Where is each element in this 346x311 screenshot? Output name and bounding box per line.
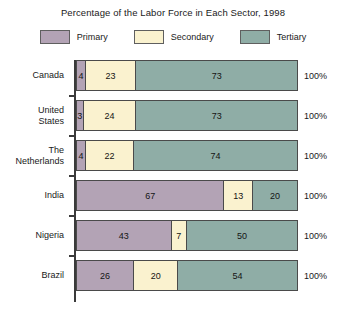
chart-legend: PrimarySecondaryTertiary — [0, 28, 346, 46]
bar-segment-primary[interactable]: 67 — [77, 181, 224, 210]
axis-tick — [69, 215, 76, 217]
row-label-india: India — [0, 180, 68, 211]
segment-value: 50 — [237, 231, 247, 241]
bar-segment-primary[interactable]: 43 — [77, 221, 172, 250]
stacked-bar[interactable]: 32473 — [76, 100, 298, 131]
bar-segment-secondary[interactable]: 20 — [134, 261, 178, 290]
row-label-brazil: Brazil — [0, 260, 68, 291]
segment-value: 54 — [233, 271, 243, 281]
segment-value: 67 — [145, 191, 155, 201]
row-label-united: UnitedStates — [0, 100, 68, 131]
bar-segment-tertiary[interactable]: 73 — [136, 61, 297, 90]
chart-row: Nigeria43750100% — [0, 220, 346, 251]
bar-segment-tertiary[interactable]: 20 — [253, 181, 297, 210]
bar-segment-primary[interactable]: 3 — [77, 101, 84, 130]
chart-row: Canada42373100% — [0, 60, 346, 91]
legend-swatch-primary — [40, 30, 70, 44]
row-label-line: States — [38, 116, 64, 127]
bar-segment-primary[interactable]: 4 — [77, 61, 86, 90]
row-label-the: TheNetherlands — [0, 140, 68, 171]
row-total: 100% — [304, 60, 327, 91]
chart-container: Percentage of the Labor Force in Each Se… — [0, 0, 346, 311]
plot-area: Canada42373100%UnitedStates32473100%TheN… — [0, 56, 346, 306]
row-label-canada: Canada — [0, 60, 68, 91]
stacked-bar[interactable]: 262054 — [76, 260, 298, 291]
row-label-line: The — [48, 145, 64, 156]
axis-tick — [69, 95, 76, 97]
chart-row: Brazil262054100% — [0, 260, 346, 291]
segment-value: 43 — [119, 231, 129, 241]
segment-value: 24 — [104, 111, 114, 121]
row-label-line: Netherlands — [15, 156, 64, 167]
axis-tick — [69, 255, 76, 257]
segment-value: 23 — [106, 71, 116, 81]
segment-value: 73 — [212, 111, 222, 121]
bar-segment-tertiary[interactable]: 50 — [187, 221, 297, 250]
legend-label: Primary — [77, 32, 108, 42]
row-label-line: India — [44, 190, 64, 201]
chart-title: Percentage of the Labor Force in Each Se… — [0, 7, 346, 18]
row-label-nigeria: Nigeria — [0, 220, 68, 251]
segment-value: 73 — [212, 71, 222, 81]
legend-swatch-tertiary — [240, 30, 270, 44]
bar-segment-primary[interactable]: 26 — [77, 261, 134, 290]
bar-segment-tertiary[interactable]: 74 — [134, 141, 297, 170]
legend-label: Secondary — [171, 32, 214, 42]
row-label-line: Nigeria — [35, 230, 64, 241]
row-total: 100% — [304, 100, 327, 131]
segment-value: 7 — [176, 231, 181, 241]
segment-value: 13 — [233, 191, 243, 201]
segment-value: 3 — [77, 111, 82, 121]
chart-row: UnitedStates32473100% — [0, 100, 346, 131]
row-total: 100% — [304, 260, 327, 291]
axis-tick — [69, 135, 76, 137]
bar-segment-tertiary[interactable]: 73 — [136, 101, 297, 130]
row-total: 100% — [304, 140, 327, 171]
segment-value: 4 — [78, 151, 83, 161]
row-total: 100% — [304, 180, 327, 211]
legend-item-primary[interactable]: Primary — [40, 30, 108, 44]
legend-item-tertiary[interactable]: Tertiary — [240, 30, 307, 44]
segment-value: 22 — [104, 151, 114, 161]
segment-value: 20 — [151, 271, 161, 281]
row-label-line: Brazil — [41, 270, 64, 281]
segment-value: 74 — [211, 151, 221, 161]
segment-value: 4 — [78, 71, 83, 81]
row-label-line: United — [38, 105, 64, 116]
legend-item-secondary[interactable]: Secondary — [134, 30, 214, 44]
row-total: 100% — [304, 220, 327, 251]
bar-segment-secondary[interactable]: 7 — [172, 221, 187, 250]
bar-segment-secondary[interactable]: 24 — [84, 101, 137, 130]
stacked-bar[interactable]: 42373 — [76, 60, 298, 91]
chart-row: India671320100% — [0, 180, 346, 211]
segment-value: 20 — [270, 191, 280, 201]
legend-swatch-secondary — [134, 30, 164, 44]
bar-segment-secondary[interactable]: 13 — [224, 181, 253, 210]
stacked-bar[interactable]: 42274 — [76, 140, 298, 171]
axis-tick — [69, 175, 76, 177]
bar-segment-secondary[interactable]: 22 — [86, 141, 134, 170]
segment-value: 26 — [100, 271, 110, 281]
stacked-bar[interactable]: 671320 — [76, 180, 298, 211]
bar-segment-secondary[interactable]: 23 — [86, 61, 137, 90]
chart-row: TheNetherlands42274100% — [0, 140, 346, 171]
legend-label: Tertiary — [277, 32, 307, 42]
row-label-line: Canada — [32, 70, 64, 81]
bar-segment-primary[interactable]: 4 — [77, 141, 86, 170]
stacked-bar[interactable]: 43750 — [76, 220, 298, 251]
bar-segment-tertiary[interactable]: 54 — [178, 261, 297, 290]
